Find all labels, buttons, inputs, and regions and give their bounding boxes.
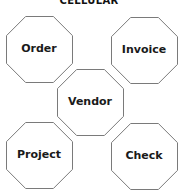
cell-label-vendor: Vendor (57, 95, 123, 109)
cell-label-check: Check (111, 149, 177, 163)
cell-label-order: Order (6, 42, 72, 56)
cell-label-project: Project (6, 148, 72, 162)
cell-label-invoice: Invoice (111, 43, 177, 57)
